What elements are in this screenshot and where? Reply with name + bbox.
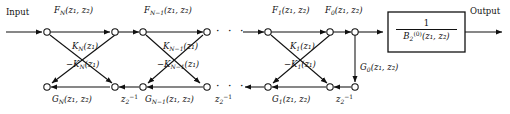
label-delay-1: z2−1 xyxy=(336,94,353,105)
transfer-function-denominator: B2(0)(z₁, z₂) xyxy=(396,31,457,42)
label-K-N: KN(z₁) xyxy=(72,42,98,52)
transfer-function-expression: 1 B2(0)(z₁, z₂) xyxy=(396,19,457,42)
label-F-N-1: FN−1(z₁, z₂) xyxy=(144,6,192,16)
label-G-0: G0(z₁, z₂) xyxy=(360,63,398,73)
lattice-filter-diagram: Input Output FN(z₁, z₂) FN−1(z₁, z₂) F1(… xyxy=(0,0,510,114)
label-K-1-negative: −K1(z₁) xyxy=(284,60,316,70)
label-F-N: FN(z₁, z₂) xyxy=(54,6,93,16)
fraction-bar xyxy=(396,29,457,30)
label-F-0: F0(z₁, z₂) xyxy=(325,6,363,16)
label-G-1: G1(z₁, z₂) xyxy=(272,95,310,105)
label-K-N-negative: −KN(z₁) xyxy=(66,60,99,70)
label-F-1: F1(z₁, z₂) xyxy=(272,6,310,16)
output-label: Output xyxy=(470,7,500,16)
label-delay-N-1: z2−1 xyxy=(215,94,232,105)
label-G-N: GN(z₁, z₂) xyxy=(52,95,92,105)
transfer-function-numerator: 1 xyxy=(396,19,457,28)
label-G-N-1: GN−1(z₁, z₂) xyxy=(145,95,194,105)
ellipsis-bottom-rail: · · · xyxy=(216,81,246,92)
label-delay-N: z2−1 xyxy=(121,94,138,105)
ellipsis-top-rail: · · · xyxy=(216,26,246,37)
label-K-N-1: KN−1(z₁) xyxy=(163,42,198,52)
label-K-N-1-negative: −KN−1(z₁) xyxy=(157,60,199,70)
label-K-1: K1(z₁) xyxy=(290,42,315,52)
input-label: Input xyxy=(6,8,29,17)
